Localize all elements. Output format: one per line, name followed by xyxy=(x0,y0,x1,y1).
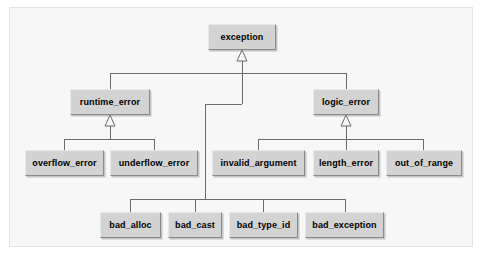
class-label: underflow_error xyxy=(119,158,190,168)
exception-hierarchy-diagram: exception runtime_error logic_error over… xyxy=(0,0,483,255)
class-label: overflow_error xyxy=(32,158,96,168)
class-box-length-error[interactable]: length_error xyxy=(313,150,379,176)
class-label: out_of_range xyxy=(395,158,453,168)
class-label: runtime_error xyxy=(80,97,140,107)
class-box-out-of-range[interactable]: out_of_range xyxy=(386,150,462,176)
class-box-bad-cast[interactable]: bad_cast xyxy=(168,212,222,238)
class-label: invalid_argument xyxy=(220,158,296,168)
class-box-overflow-error[interactable]: overflow_error xyxy=(25,150,104,176)
class-box-logic-error[interactable]: logic_error xyxy=(313,89,379,115)
class-label: bad_cast xyxy=(175,220,215,230)
class-box-bad-exception[interactable]: bad_exception xyxy=(305,212,384,238)
class-label: logic_error xyxy=(322,97,370,107)
class-label: bad_type_id xyxy=(237,220,291,230)
class-box-bad-type-id[interactable]: bad_type_id xyxy=(229,212,298,238)
class-box-runtime-error[interactable]: runtime_error xyxy=(70,89,150,115)
class-box-bad-alloc[interactable]: bad_alloc xyxy=(100,212,161,238)
class-label: bad_exception xyxy=(312,220,376,230)
class-label: bad_alloc xyxy=(109,220,151,230)
class-label: length_error xyxy=(319,158,373,168)
class-box-invalid-argument[interactable]: invalid_argument xyxy=(212,150,305,176)
class-label: exception xyxy=(221,32,264,42)
class-box-exception[interactable]: exception xyxy=(208,24,276,50)
class-box-underflow-error[interactable]: underflow_error xyxy=(110,150,198,176)
